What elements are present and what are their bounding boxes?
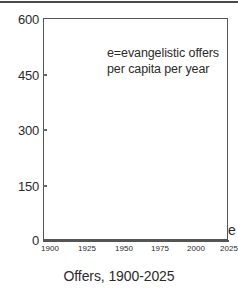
figure-title: Offers, 1900-2025 xyxy=(0,268,238,284)
data-marker-e: e xyxy=(228,223,236,237)
y-tick-label-150: 150 xyxy=(18,180,39,193)
y-tick-label-600: 600 xyxy=(18,13,39,26)
y-tick-150 xyxy=(43,185,47,187)
x-tick-label-1950: 1950 xyxy=(115,244,133,253)
y-tick-label-450: 450 xyxy=(18,69,39,82)
x-tick-label-1925: 1925 xyxy=(78,244,96,253)
x-tick-label-1900: 1900 xyxy=(41,244,59,253)
plot-annotation: e=evangelistic offers per capita per yea… xyxy=(107,45,238,77)
x-tick-label-2025: 2025 xyxy=(220,244,238,253)
plot-area: e=evangelistic offers per capita per yea… xyxy=(43,18,228,240)
x-tick-label-1975: 1975 xyxy=(151,244,169,253)
y-tick-300 xyxy=(43,129,47,131)
x-tick-label-2000: 2000 xyxy=(187,244,205,253)
y-tick-450 xyxy=(43,74,47,76)
x-axis-line xyxy=(43,240,229,242)
chart-figure: e=evangelistic offers per capita per yea… xyxy=(0,0,238,297)
y-tick-label-300: 300 xyxy=(18,124,39,137)
y-tick-label-0: 0 xyxy=(32,234,39,247)
